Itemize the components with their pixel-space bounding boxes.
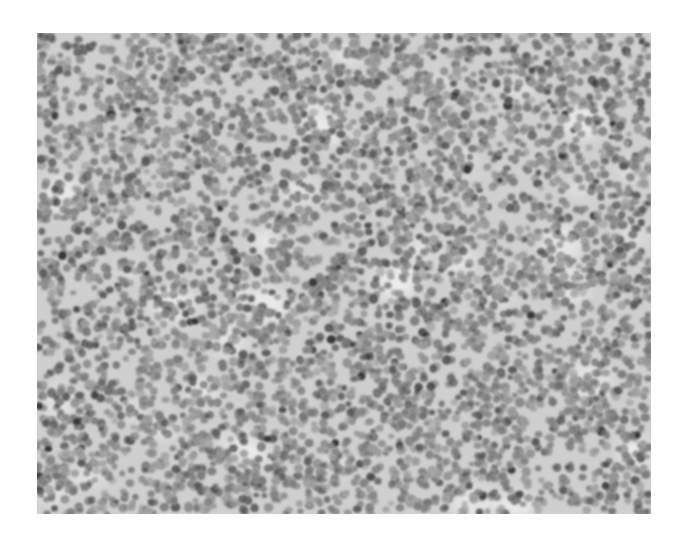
page [0,0,687,537]
cell-texture [37,33,651,514]
histology-micrograph [37,33,651,514]
